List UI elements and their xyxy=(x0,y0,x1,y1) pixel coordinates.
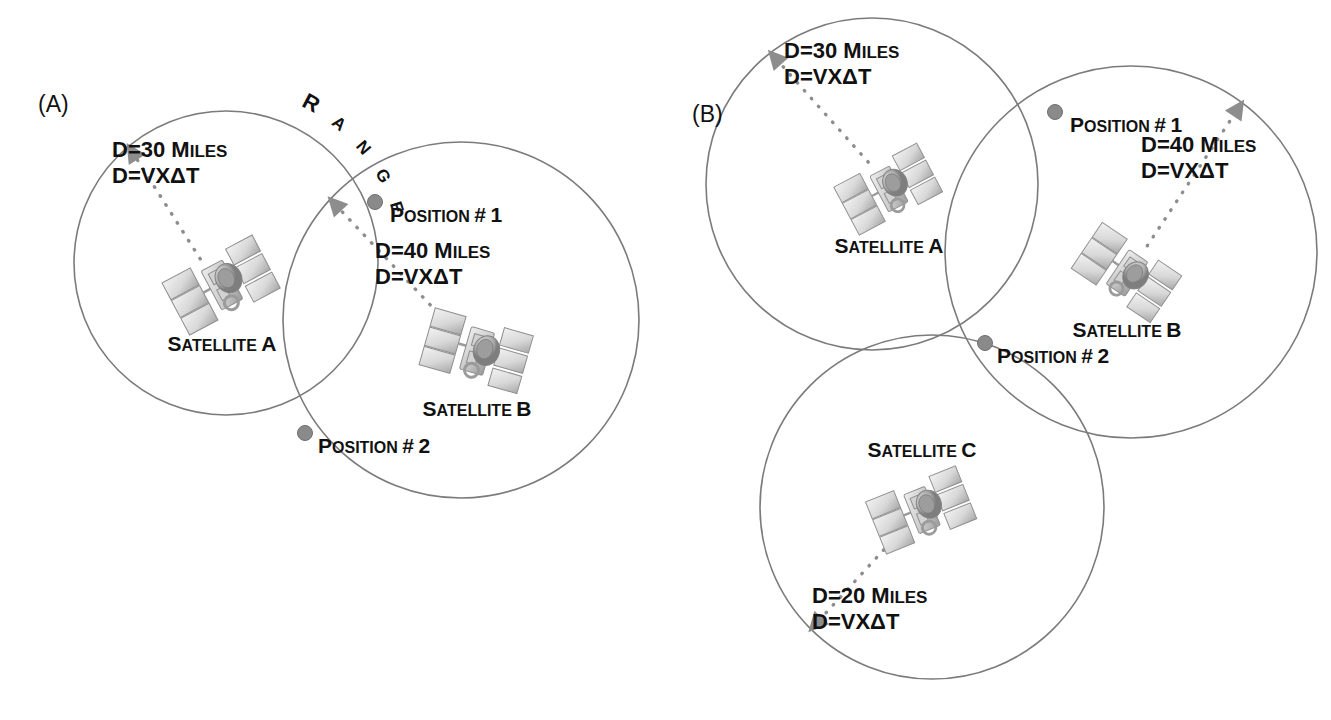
trilateration-diagram: (A)RANGESATELLITE ASATELLITE BD=30 MILES… xyxy=(0,0,1331,720)
label-satellite-a: SATELLITE A xyxy=(835,234,944,257)
label-satellite-b: SATELLITE B xyxy=(1073,318,1182,341)
panel-b-range-circle-satellite-a xyxy=(706,18,1038,350)
panel-b-position-1-label: POSITION # 1 xyxy=(1070,113,1182,136)
satellite-icon-a xyxy=(162,235,280,336)
range-label-char: G xyxy=(371,166,394,187)
panel-label-b: (B) xyxy=(692,101,723,127)
labels-layer: (A)RANGESATELLITE ASATELLITE BD=30 MILES… xyxy=(38,38,1256,634)
distance-satellite-a-line2: D=VXΔT xyxy=(112,163,200,188)
panel-label-a: (A) xyxy=(38,91,69,117)
panel-b-position-1-node xyxy=(1048,105,1063,120)
label-satellite-c: SATELLITE C xyxy=(868,438,977,461)
panel-b-position-2-label: POSITION # 2 xyxy=(997,344,1109,367)
distance-satellite-b-line1: D=40 MILES xyxy=(375,238,490,263)
panel-a-position-2-label: POSITION # 2 xyxy=(318,434,430,457)
distance-satellite-c-line2: D=VXΔT xyxy=(812,609,900,634)
distance-satellite-a-line1: D=30 MILES xyxy=(784,38,899,63)
range-label: RANGE xyxy=(298,88,407,216)
range-label-char: R xyxy=(298,88,324,118)
satellite-icon-c xyxy=(866,466,977,555)
distance-satellite-c-line1: D=20 MILES xyxy=(812,583,927,608)
range-label-char: A xyxy=(328,112,350,134)
distance-satellite-b-line2: D=VXΔT xyxy=(375,264,463,289)
satellite-icon-b xyxy=(1071,222,1182,322)
distance-satellite-a-line2: D=VXΔT xyxy=(784,64,872,89)
distance-satellite-b-line2: D=VXΔT xyxy=(1141,158,1229,183)
distance-satellite-a-line1: D=30 MILES xyxy=(112,137,227,162)
label-satellite-b: SATELLITE B xyxy=(423,397,532,420)
panel-b-position-2-node xyxy=(978,336,993,351)
satellite-icon-b xyxy=(419,308,534,394)
range-label-char: N xyxy=(352,137,374,159)
panel-a-position-1-node xyxy=(368,195,383,210)
satellite-icon-a xyxy=(834,143,943,236)
panel-a-position-2-node xyxy=(298,426,313,441)
label-satellite-a: SATELLITE A xyxy=(168,332,277,355)
diagram-canvas: (A)RANGESATELLITE ASATELLITE BD=30 MILES… xyxy=(0,0,1331,720)
